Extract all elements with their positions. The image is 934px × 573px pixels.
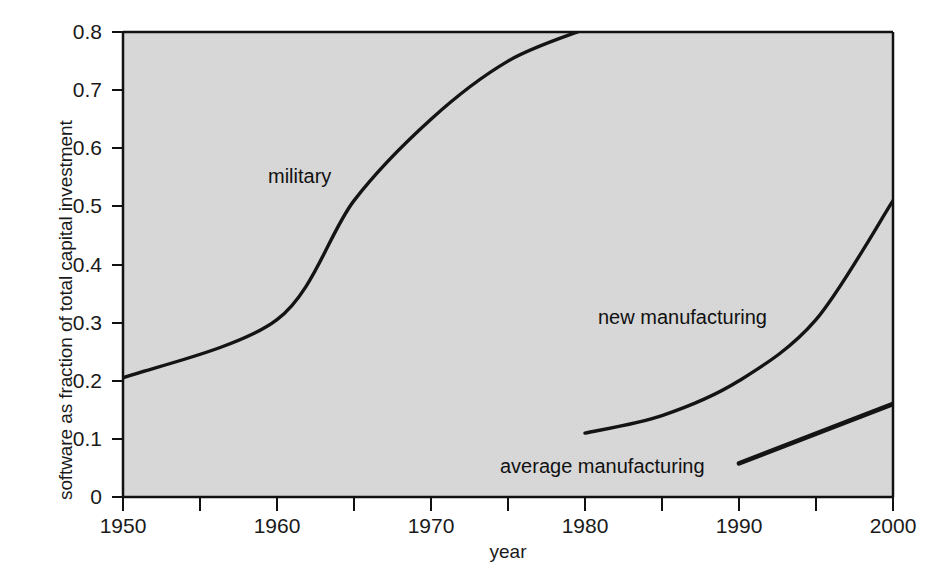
y-tick-label-0.3: 0.3 [44,312,102,333]
x-tick-label-1950: 1950 [78,515,168,536]
x-tick-label-1990: 1990 [694,515,784,536]
y-tick-label-0.4: 0.4 [44,254,102,275]
x-axis-ticks [123,497,893,511]
x-tick-label-2000: 2000 [848,515,934,536]
y-tick-label-0.8: 0.8 [44,21,102,42]
plot-area [0,0,934,573]
y-axis-ticks [112,32,123,497]
x-tick-label-1970: 1970 [386,515,476,536]
chart-figure: software as fraction of total capital in… [0,0,934,573]
y-tick-label-0.7: 0.7 [44,79,102,100]
y-tick-label-0.6: 0.6 [44,137,102,158]
plot-background [123,32,893,497]
y-tick-label-0: 0 [44,486,102,507]
x-tick-label-1980: 1980 [540,515,630,536]
y-tick-label-0.5: 0.5 [44,195,102,216]
y-tick-label-0.1: 0.1 [44,428,102,449]
series-label-average-manufacturing: average manufacturing [500,456,705,476]
x-tick-label-1960: 1960 [232,515,322,536]
y-tick-label-0.2: 0.2 [44,370,102,391]
series-label-new-manufacturing: new manufacturing [598,307,767,327]
x-axis-title: year [123,541,893,563]
series-label-military: military [268,166,331,186]
